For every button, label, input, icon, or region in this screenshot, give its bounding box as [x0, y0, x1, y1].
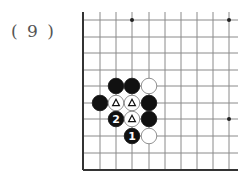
black-stone [124, 78, 140, 94]
white-stone [141, 78, 157, 94]
white-stone [124, 111, 140, 127]
star-point-icon [227, 18, 231, 22]
star-point-icon [130, 18, 134, 22]
move-number: 2 [112, 113, 120, 126]
go-board-diagram: 21 [0, 0, 250, 177]
black-stone [141, 111, 157, 127]
white-stone [141, 128, 157, 144]
star-point-icon [227, 117, 231, 121]
black-stone [141, 95, 157, 111]
white-stone [124, 95, 140, 111]
black-stone [108, 78, 124, 94]
white-stone [108, 95, 124, 111]
black-stone [92, 95, 108, 111]
move-number: 1 [128, 130, 136, 143]
